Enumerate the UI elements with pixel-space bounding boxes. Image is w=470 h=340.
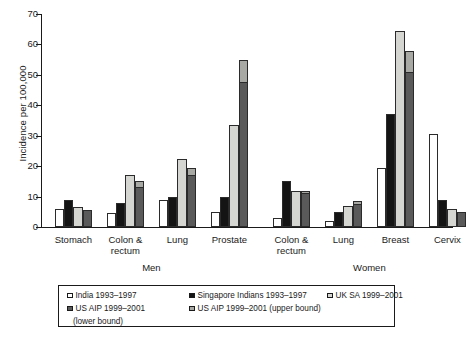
x-axis-group-label: Men <box>111 262 191 273</box>
legend-swatch-us-aip-upper <box>189 306 195 312</box>
bar <box>187 168 196 227</box>
legend-swatch-uk-sa <box>327 293 333 299</box>
bar-group <box>107 14 144 227</box>
legend-label-uk-sa: UK SA 1999–2001 <box>336 291 403 300</box>
bar <box>395 31 404 227</box>
bar <box>64 200 73 227</box>
x-axis-label-line: Cervix <box>411 234 470 245</box>
bar-lower-bound-segment <box>188 175 195 226</box>
legend-swatch-us-aip-lower <box>67 306 73 312</box>
y-tick-label: 60 <box>27 38 38 49</box>
bar-group <box>159 14 196 227</box>
legend-item-us-aip-lower: US AIP 1999–2001 <box>67 303 145 314</box>
legend-item-singapore-indians: Singapore Indians 1993–1997 <box>189 290 307 301</box>
x-axis-label-line: rectum <box>89 245 161 256</box>
bar <box>116 203 125 227</box>
y-tick-label: 50 <box>27 69 38 80</box>
legend-sublabel-us-aip-lower: (lower bound) <box>73 316 123 327</box>
bar <box>438 200 447 227</box>
x-axis-label: Cervix <box>411 234 470 245</box>
bar <box>239 60 248 227</box>
x-axis-label-line: rectum <box>255 245 327 256</box>
legend-label-singapore-indians: Singapore Indians 1993–1997 <box>198 291 307 300</box>
bar <box>377 168 386 227</box>
bar <box>211 212 220 227</box>
y-tick-label: 30 <box>27 130 38 141</box>
bar <box>135 181 144 227</box>
legend-label-india: India 1993–1997 <box>76 291 137 300</box>
bar <box>429 134 438 227</box>
legend-row-2: US AIP 1999–2001 US AIP 1999–2001 (upper… <box>65 303 388 316</box>
y-tick-label: 40 <box>27 99 38 110</box>
plot-area: 010203040506070 <box>41 14 453 228</box>
bar <box>282 181 291 227</box>
bar <box>334 212 343 227</box>
bar-group <box>211 14 248 227</box>
bar <box>405 51 414 227</box>
legend-label-us-aip-upper: US AIP 1999–2001 (upper bound) <box>198 304 321 313</box>
bar-lower-bound-segment <box>406 72 413 226</box>
bar <box>83 210 92 227</box>
legend-item-us-aip-upper: US AIP 1999–2001 (upper bound) <box>189 303 321 314</box>
x-axis-line <box>41 227 453 228</box>
bar-lower-bound-segment <box>302 193 309 226</box>
bar-lower-bound-segment <box>240 82 247 226</box>
x-axis-group-label: Women <box>329 262 409 273</box>
bar-lower-bound-segment <box>84 211 91 226</box>
legend-row-1: India 1993–1997 Singapore Indians 1993–1… <box>65 290 388 303</box>
bar <box>386 114 395 227</box>
legend-item-india: India 1993–1997 <box>67 290 137 301</box>
y-tick-label: 20 <box>27 160 38 171</box>
bar-lower-bound-segment <box>136 187 143 226</box>
y-tick-label: 0 <box>33 221 38 232</box>
bar <box>343 206 352 227</box>
bar-group <box>55 14 92 227</box>
chart-legend: India 1993–1997 Singapore Indians 1993–1… <box>58 285 395 327</box>
bar <box>125 175 134 227</box>
legend-swatch-india <box>67 293 73 299</box>
bar <box>177 159 186 227</box>
y-tick-label: 70 <box>27 8 38 19</box>
legend-swatch-singapore-indians <box>189 293 195 299</box>
bar <box>107 213 116 227</box>
bar <box>55 209 64 227</box>
bar <box>73 207 82 227</box>
legend-item-uk-sa: UK SA 1999–2001 <box>327 290 403 301</box>
bar-group <box>429 14 466 227</box>
bar <box>447 209 456 227</box>
y-tick-label: 10 <box>27 191 38 202</box>
y-axis-title: Incidence per 100,000 <box>17 24 28 204</box>
bar <box>353 201 362 227</box>
bar <box>301 191 310 228</box>
bar <box>291 191 300 228</box>
bar-group <box>273 14 310 227</box>
bar-lower-bound-segment <box>354 204 361 226</box>
bar <box>229 125 238 227</box>
legend-label-us-aip-lower: US AIP 1999–2001 <box>76 304 146 313</box>
bar-lower-bound-segment <box>458 213 465 226</box>
y-axis-line <box>41 14 42 228</box>
bar-group <box>325 14 362 227</box>
bar-group <box>377 14 414 227</box>
bar <box>325 221 334 227</box>
bar <box>273 218 282 227</box>
bar <box>159 200 168 227</box>
bar <box>220 197 229 227</box>
bar <box>457 212 466 227</box>
bar <box>168 197 177 227</box>
